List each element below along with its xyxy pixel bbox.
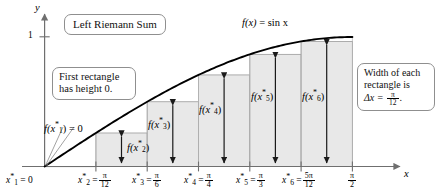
callout-first-rectangle: First rectangle has height 0. [52, 67, 136, 100]
x-end-den: 2 [348, 181, 356, 189]
callout-width-line3: Δx = π 12 . [364, 91, 428, 107]
y-tick-label-1: 1 [28, 30, 33, 40]
x5-den: 3 [257, 181, 265, 189]
x-axis-label: x [404, 168, 409, 179]
x6-den: 12 [303, 181, 315, 189]
x5-fraction: π3 [257, 172, 265, 189]
f-x3-rhs: ) [167, 119, 171, 130]
x6-sub: 6 [290, 178, 294, 187]
f-x6-rhs: ) [321, 91, 325, 102]
label-f-x1-equals-zero: f(x*1) = 0 [44, 120, 83, 135]
callout-width-line1: Width of each [364, 67, 428, 79]
function-label: f(x) = sin x [242, 17, 288, 28]
x3-eq: = [146, 175, 151, 185]
x4-sub: 4 [192, 178, 196, 187]
x3-den: 6 [153, 181, 161, 189]
label-f-x4: f(x*4) [199, 101, 221, 116]
label-f-x2: f(x*2) [127, 139, 149, 154]
function-label-eq: = [259, 17, 265, 28]
callout-title-text: Left Riemann Sum [73, 18, 157, 30]
label-f-x3: f(x*3) [148, 116, 170, 131]
f-x4-rhs: ) [218, 104, 222, 115]
x2-sub: 2 [86, 178, 90, 187]
x5-eq: = [250, 175, 255, 185]
y-axis-label: y [35, 2, 40, 13]
f-x6-lhs: f(x [302, 91, 313, 102]
delta-x-fraction: π 12 [387, 91, 399, 107]
x-tick-label-4: x*4 =π4 [184, 172, 214, 189]
callout-left-riemann-sum: Left Riemann Sum [64, 14, 166, 35]
x2-eq: = [92, 175, 97, 185]
label-f-x6: f(x*6) [302, 88, 324, 103]
x-end-fraction: π2 [348, 172, 356, 189]
delta-x-period: . [400, 92, 403, 103]
x5-sub: 5 [244, 178, 248, 187]
f-x2-rhs: ) [146, 142, 150, 153]
callout-rectangle-width: Width of each rectangle is Δx = π 12 . [357, 63, 435, 111]
x-tick-label-3: x*3 =π6 [132, 172, 162, 189]
x4-eq: = [198, 175, 203, 185]
x6-fraction: 5π12 [303, 172, 315, 189]
x3-fraction: π6 [153, 172, 161, 189]
callout-width-line2: rectangle is [364, 79, 428, 91]
x4-den: 4 [205, 181, 213, 189]
x-tick-label-end: π2 [347, 172, 357, 189]
x1-eq: = 0 [20, 175, 32, 185]
function-label-fx: f(x) [242, 17, 257, 28]
f-x1-rhs: ) = 0 [63, 123, 83, 134]
f-x2-lhs: f(x [127, 142, 138, 153]
f-x1-lhs: f(x [44, 123, 55, 134]
x3-sub: 3 [140, 178, 144, 187]
x2-fraction: π12 [99, 172, 111, 189]
f-x5-rhs: ) [270, 91, 274, 102]
delta-x-denominator: 12 [387, 99, 399, 107]
callout-first-line2: has height 0. [59, 83, 129, 95]
x6-eq: = [296, 175, 301, 185]
x1-sub: 1 [14, 178, 18, 187]
x-tick-label-6: x*6 =5π12 [282, 172, 316, 189]
x-tick-label-1: x*1 = 0 [6, 172, 33, 187]
x-tick-label-5: x*5 =π3 [236, 172, 266, 189]
label-f-x5: f(x*5) [251, 88, 273, 103]
callout-first-line1: First rectangle [59, 71, 129, 83]
f-x3-lhs: f(x [148, 119, 159, 130]
x4-fraction: π4 [205, 172, 213, 189]
x-tick-label-2: x*2 =π12 [78, 172, 112, 189]
f-x5-lhs: f(x [251, 91, 262, 102]
f-x4-lhs: f(x [199, 104, 210, 115]
riemann-sum-figure: Left Riemann Sum First rectangle has hei… [0, 0, 439, 195]
x2-den: 12 [99, 181, 111, 189]
delta-x-text: Δx = [364, 92, 384, 103]
function-label-rhs: sin x [268, 17, 288, 28]
